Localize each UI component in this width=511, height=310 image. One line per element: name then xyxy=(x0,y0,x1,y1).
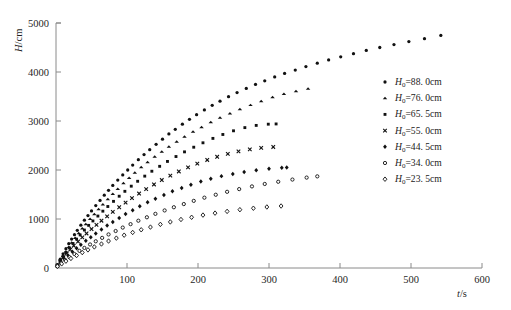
legend-label: H0=76. 0cm xyxy=(394,92,442,105)
x-tick-label: 400 xyxy=(332,274,348,285)
marker-filled-diamond xyxy=(180,186,184,190)
marker-open-circle xyxy=(172,206,175,209)
y-tick-label: 5000 xyxy=(28,18,49,29)
marker-open-circle xyxy=(83,246,86,249)
marker-filled-square xyxy=(87,224,90,227)
marker-filled-circle xyxy=(181,123,184,126)
marker-cross-x xyxy=(248,148,252,152)
marker-filled-square xyxy=(123,190,126,193)
marker-filled-circle xyxy=(195,113,198,116)
data-series-group xyxy=(55,34,442,269)
marker-filled-circle xyxy=(90,209,93,212)
marker-filled-square xyxy=(202,141,205,144)
legend-label: H0=44. 5cm xyxy=(394,141,442,154)
marker-cross-x xyxy=(111,210,115,214)
marker-filled-triangle xyxy=(121,182,125,184)
marker-open-diamond xyxy=(279,204,283,208)
marker-filled-triangle xyxy=(116,187,120,189)
marker-open-circle xyxy=(114,229,117,232)
marker-filled-diamond xyxy=(199,179,203,183)
x-tick-label: 100 xyxy=(119,274,135,285)
marker-filled-circle xyxy=(235,91,238,94)
marker-filled-circle xyxy=(211,104,214,107)
marker-cross-x xyxy=(160,178,164,182)
marker-filled-circle xyxy=(116,178,119,181)
marker-cross-x xyxy=(237,150,241,154)
marker-open-circle xyxy=(137,219,140,222)
marker-filled-square xyxy=(101,210,104,213)
marker-filled-circle xyxy=(365,49,368,52)
marker-filled-square xyxy=(221,133,224,136)
marker-cross-x xyxy=(226,152,230,156)
marker-filled-circle xyxy=(111,184,114,187)
marker-filled-circle xyxy=(423,37,426,40)
marker-filled-triangle xyxy=(92,213,96,215)
marker-open-diamond xyxy=(114,236,118,240)
marker-filled-circle xyxy=(327,58,330,61)
marker-filled-circle xyxy=(407,40,410,43)
marker-filled-triangle xyxy=(248,104,252,106)
marker-filled-diamond xyxy=(162,193,166,197)
marker-open-diamond xyxy=(168,220,172,224)
marker-filled-diamond xyxy=(209,177,213,181)
marker-filled-circle xyxy=(142,153,145,156)
marker-filled-circle xyxy=(86,214,89,217)
marker-cross-x xyxy=(271,145,275,149)
marker-filled-circle xyxy=(439,34,442,37)
marker-filled-triangle xyxy=(167,145,171,147)
marker-filled-square xyxy=(96,215,99,218)
marker-filled-square xyxy=(83,229,86,232)
marker-open-circle xyxy=(250,185,253,188)
chart-legend: H0=88. 0cmH0=76. 0cmH0=65. 5cmH0=55. 0cm… xyxy=(383,76,443,186)
marker-cross-x xyxy=(85,232,89,236)
y-tick-label: 2000 xyxy=(28,165,49,176)
marker-open-circle xyxy=(203,196,206,199)
marker-filled-diamond xyxy=(153,196,157,200)
series-6 xyxy=(56,204,283,269)
marker-filled-triangle xyxy=(160,150,164,152)
marker-open-diamond xyxy=(201,213,205,217)
marker-filled-circle xyxy=(137,158,140,161)
marker-cross-x xyxy=(383,129,387,133)
marker-filled-circle xyxy=(107,189,110,192)
marker-filled-square xyxy=(243,126,246,129)
marker-filled-circle xyxy=(283,72,286,75)
marker-filled-triangle xyxy=(182,135,186,137)
marker-filled-circle xyxy=(392,43,395,46)
marker-open-diamond xyxy=(383,177,387,181)
marker-filled-circle xyxy=(188,118,191,121)
legend-label: H0=23. 5cm xyxy=(394,173,442,186)
marker-filled-circle xyxy=(383,80,386,83)
marker-filled-circle xyxy=(304,65,307,68)
marker-cross-x xyxy=(130,196,134,200)
marker-cross-x xyxy=(137,192,141,196)
marker-filled-square xyxy=(192,146,195,149)
x-axis-title-text: t/s xyxy=(457,288,467,299)
marker-filled-circle xyxy=(245,87,248,90)
marker-open-diamond xyxy=(131,230,135,234)
marker-filled-circle xyxy=(273,75,276,78)
marker-open-circle xyxy=(121,226,124,229)
legend-label: H0=65. 5cm xyxy=(394,108,442,121)
marker-filled-triangle xyxy=(383,97,387,99)
marker-cross-x xyxy=(215,155,219,159)
marker-open-circle xyxy=(383,161,386,164)
marker-filled-diamond xyxy=(267,167,271,171)
marker-filled-circle xyxy=(79,223,82,226)
y-tick-label: 0 xyxy=(44,263,49,274)
legend-item-5: H0=34. 0cm xyxy=(383,157,442,170)
marker-filled-triangle xyxy=(228,112,232,114)
marker-filled-circle xyxy=(263,79,266,82)
marker-filled-diamond xyxy=(131,208,135,212)
marker-cross-x xyxy=(105,215,109,219)
marker-filled-square xyxy=(91,220,94,223)
marker-filled-diamond xyxy=(124,212,128,216)
marker-filled-circle xyxy=(131,163,134,166)
y-axis-title-text: H/cm xyxy=(13,29,24,53)
marker-cross-x xyxy=(186,166,190,170)
marker-open-diamond xyxy=(238,207,242,211)
marker-filled-triangle xyxy=(199,126,203,128)
marker-cross-x xyxy=(152,183,156,187)
marker-filled-circle xyxy=(254,83,257,86)
y-tick-label: 1000 xyxy=(28,214,49,225)
